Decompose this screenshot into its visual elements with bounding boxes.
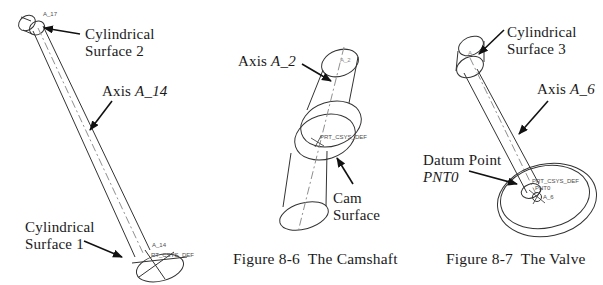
valve-surface3-label: Cylindrical Surface 3 xyxy=(507,24,577,58)
valve-axis-label-name: A_6 xyxy=(570,81,595,97)
pushrod-surface2-arrow xyxy=(44,28,80,34)
valve-datum-label-name: PNT0 xyxy=(423,169,501,186)
figure-8-7-caption: Figure 8-7 The Valve xyxy=(446,250,586,268)
valve-pnt-tag: PNT0 xyxy=(535,185,550,191)
camshaft-axis-label: Axis A_2 xyxy=(238,53,296,70)
camshaft-upper-edge-right xyxy=(349,57,358,103)
pushrod-top-cap-face xyxy=(16,12,39,34)
cam-surface-arrow xyxy=(337,158,353,184)
pushrod-axis-label: Axis A_14 xyxy=(102,83,168,100)
valve-axis-label-prefix: Axis xyxy=(537,81,570,97)
valve-csys-tag: PRT_CSYS_DEF xyxy=(532,178,579,184)
camshaft-axis-label-prefix: Axis xyxy=(238,53,271,69)
camshaft-axis-arrow xyxy=(302,64,331,81)
valve-stem-axis-tag: A xyxy=(468,50,472,56)
pushrod-bottom-axis-tag: A_14 xyxy=(152,242,166,248)
pushrod-top-axis-tag: A_17 xyxy=(43,11,57,17)
camshaft-axis-tag: A_2 xyxy=(340,57,351,63)
camshaft-csys-tag: PRT_CSYS_DEF xyxy=(320,134,367,140)
pushrod-csys-tag: RT_CSYS_DEF xyxy=(151,252,194,258)
cam-lobe-top xyxy=(295,93,368,154)
camshaft-bottom-face xyxy=(276,197,331,236)
pushrod-axis-arrow xyxy=(90,101,112,130)
valve-axis-tag: A_6 xyxy=(543,194,554,200)
figure-8-6-caption: Figure 8-6 The Camshaft xyxy=(233,250,398,268)
valve-head-outer xyxy=(491,154,603,245)
valve-drawing xyxy=(453,30,603,246)
valve-datum-label-text: Datum Point xyxy=(423,152,501,169)
pushrod-surface2-label: Cylindrical Surface 2 xyxy=(85,26,155,60)
pushrod-surface1-label: Cylindrical Surface 1 xyxy=(25,219,95,253)
camshaft-axis-label-name: A_2 xyxy=(271,53,296,69)
valve-axis-label: Axis A_6 xyxy=(537,81,595,98)
pushrod-axis-label-prefix: Axis xyxy=(102,83,135,99)
valve-surface3-arrow xyxy=(479,30,504,54)
valve-datum-label: Datum PointPNT0 xyxy=(423,152,501,186)
camshaft-lower-edge-left xyxy=(283,153,291,207)
cam-surface-label: Cam Surface xyxy=(333,190,380,224)
valve-axis-arrow xyxy=(519,101,548,134)
pushrod-axis-label-name: A_14 xyxy=(135,83,167,99)
figure-page: Cylindrical Surface 2 Axis A_14 Cylindri… xyxy=(0,0,603,285)
